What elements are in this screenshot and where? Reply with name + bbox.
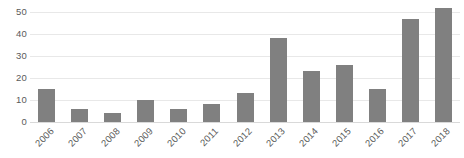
x-tick-label: 2016 xyxy=(364,126,386,148)
bar xyxy=(303,71,320,122)
y-tick-label: 20 xyxy=(3,73,27,83)
bar xyxy=(170,109,187,122)
x-tick-label: 2010 xyxy=(165,126,187,148)
bar-chart: 01020304050 2006200720082009201020112012… xyxy=(0,0,464,158)
x-tick-label: 2012 xyxy=(231,126,253,148)
x-tick-label: 2009 xyxy=(132,126,154,148)
x-tick-label: 2014 xyxy=(298,126,320,148)
x-tick-label: 2013 xyxy=(264,126,286,148)
x-tick-label: 2006 xyxy=(33,126,55,148)
x-tick-label: 2018 xyxy=(430,126,452,148)
x-tick-label: 2011 xyxy=(198,126,220,148)
bar xyxy=(71,109,88,122)
y-tick-label: 50 xyxy=(3,7,27,17)
x-tick-label: 2008 xyxy=(99,126,121,148)
bar xyxy=(137,100,154,122)
bar xyxy=(336,65,353,122)
bar xyxy=(270,38,287,122)
bar xyxy=(104,113,121,122)
x-tick-label: 2017 xyxy=(397,126,419,148)
bar xyxy=(435,8,452,122)
y-tick-label: 30 xyxy=(3,51,27,61)
bar xyxy=(203,104,220,122)
bar xyxy=(237,93,254,122)
bar xyxy=(38,89,55,122)
y-tick-label: 0 xyxy=(3,117,27,127)
x-axis: 2006200720082009201020112012201320142015… xyxy=(30,123,460,158)
bar-series xyxy=(30,4,460,122)
bar xyxy=(402,19,419,122)
y-axis: 01020304050 xyxy=(0,4,27,122)
x-tick-label: 2015 xyxy=(331,126,353,148)
y-tick-label: 40 xyxy=(3,29,27,39)
bar xyxy=(369,89,386,122)
y-tick-label: 10 xyxy=(3,95,27,105)
x-tick-label: 2007 xyxy=(66,126,88,148)
